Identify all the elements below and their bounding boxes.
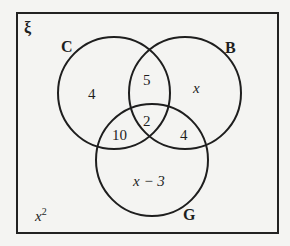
set-g-circle — [96, 104, 208, 216]
set-b-label: B — [225, 39, 236, 56]
venn-diagram: ξ C B G 4 x 5 2 10 4 x − 3 x2 — [0, 0, 290, 246]
set-g-label: G — [183, 206, 196, 223]
set-c-label: C — [61, 38, 73, 55]
region-c-only: 4 — [88, 86, 96, 102]
region-b-and-g: 4 — [180, 127, 188, 143]
region-c-and-b: 5 — [143, 72, 151, 88]
region-c-and-g: 10 — [112, 127, 127, 143]
region-g-only: x − 3 — [132, 173, 165, 189]
region-c-b-g: 2 — [143, 113, 151, 129]
region-outside: x2 — [34, 206, 47, 224]
universal-set-symbol: ξ — [24, 19, 32, 37]
region-b-only: x — [192, 80, 200, 96]
